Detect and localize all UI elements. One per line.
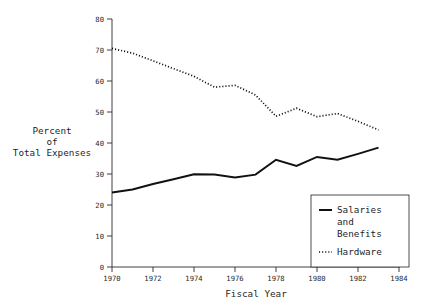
y-tick-label-40: 40	[95, 139, 104, 148]
y-tick-label-60: 60	[95, 77, 104, 86]
y-axis-title-line-1: Percent	[32, 125, 71, 136]
x-tick-label-1972: 1972	[144, 274, 161, 283]
x-tick-label-1984: 1984	[390, 274, 407, 283]
y-tick-label-80: 80	[95, 15, 104, 24]
y-axis-ticks: 0 10 20 30 40 50 60 70 80	[95, 15, 112, 272]
y-tick-label-30: 30	[95, 170, 104, 179]
series-line-salaries	[112, 148, 379, 193]
y-axis-title-line-2: of	[46, 136, 57, 147]
y-axis-title-line-3: Total Expenses	[13, 147, 91, 158]
legend-label-salaries-line-1: Salaries	[337, 204, 382, 215]
x-axis-title: Fiscal Year	[225, 288, 287, 299]
series-line-hardware	[112, 48, 379, 130]
line-chart: 0 10 20 30 40 50 60 70 80 1970 1972	[0, 0, 430, 307]
chart-container: 0 10 20 30 40 50 60 70 80 1970 1972	[0, 0, 430, 307]
y-tick-label-70: 70	[95, 46, 104, 55]
x-tick-label-1978: 1978	[267, 274, 284, 283]
legend-label-salaries-line-3: Benefits	[337, 228, 382, 239]
x-tick-label-1970: 1970	[103, 274, 120, 283]
legend-label-hardware: Hardware	[337, 246, 382, 257]
x-tick-label-1982: 1982	[349, 274, 366, 283]
y-tick-label-50: 50	[95, 108, 104, 117]
chart-legend: Salaries and Benefits Hardware	[311, 195, 409, 267]
x-tick-label-1974: 1974	[185, 274, 202, 283]
y-tick-label-20: 20	[95, 201, 104, 210]
y-axis-title: Percent of Total Expenses	[13, 125, 91, 158]
y-tick-label-0: 0	[100, 263, 104, 272]
legend-label-salaries-line-2: and	[337, 216, 354, 227]
x-axis-ticks: 1970 1972 1974 1976 1978 1980 1982 1984	[103, 267, 407, 283]
y-tick-label-10: 10	[95, 232, 104, 241]
x-tick-label-1976: 1976	[226, 274, 243, 283]
x-tick-label-1980: 1980	[308, 274, 325, 283]
